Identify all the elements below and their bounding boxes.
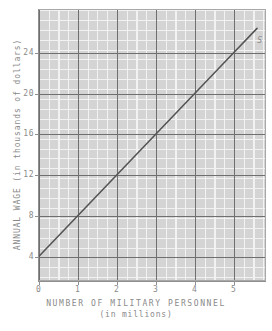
chart-figure: 4812162024 012345 S ANNUAL WAGE (in thou… <box>0 0 272 331</box>
x-tick-mark-5 <box>234 282 235 285</box>
y-tick-mark-24 <box>35 53 38 54</box>
x-tick-label-2: 2 <box>107 286 127 294</box>
y-tick-mark-4 <box>35 257 38 258</box>
plot-area <box>38 9 266 281</box>
series-layer <box>38 9 266 281</box>
x-axis-subtitle: (in millions) <box>0 309 272 320</box>
x-tick-mark-2 <box>117 282 118 285</box>
y-axis-title: ANNUAL WAGE (in thousands of dollars) <box>13 20 22 270</box>
y-tick-mark-20 <box>35 94 38 95</box>
supply-curve-line <box>39 28 257 256</box>
x-tick-label-0: 0 <box>29 286 49 294</box>
x-tick-label-1: 1 <box>68 286 88 294</box>
x-tick-label-5: 5 <box>224 286 244 294</box>
x-tick-mark-0 <box>39 282 40 285</box>
x-axis-title: NUMBER OF MILITARY PERSONNEL <box>0 298 272 309</box>
x-axis-title-block: NUMBER OF MILITARY PERSONNEL (in million… <box>0 298 272 320</box>
y-tick-mark-16 <box>35 134 38 135</box>
y-tick-mark-8 <box>35 216 38 217</box>
x-tick-mark-4 <box>195 282 196 285</box>
x-tick-mark-1 <box>78 282 79 285</box>
x-axis-line <box>38 281 266 282</box>
x-tick-label-3: 3 <box>146 286 166 294</box>
x-tick-mark-3 <box>156 282 157 285</box>
y-axis-line <box>38 9 39 281</box>
y-tick-mark-12 <box>35 175 38 176</box>
x-tick-label-4: 4 <box>185 286 205 294</box>
supply-curve-label: S <box>257 37 262 45</box>
